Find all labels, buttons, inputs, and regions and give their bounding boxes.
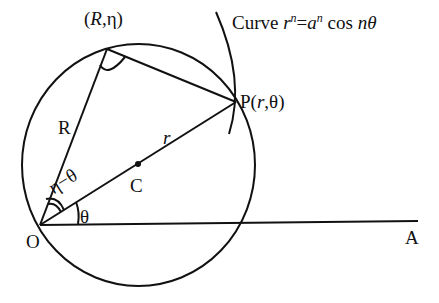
top-point-R: R xyxy=(90,8,102,29)
top-point-eta: ,η) xyxy=(102,8,123,29)
center-C-label: C xyxy=(130,176,143,195)
polar-curve-diagram: Curve rn=an cos nθ (R,η) P(r,θ) R r C η−… xyxy=(0,0,439,303)
top-point-label: (R,η) xyxy=(84,9,123,28)
diagram-graphics xyxy=(0,0,439,303)
initial-line-OA xyxy=(40,221,418,225)
curve-cos: cos xyxy=(323,12,358,33)
curve-r: r xyxy=(283,12,290,33)
curve-eq: = xyxy=(297,12,308,33)
segment-r-label: r xyxy=(163,128,170,147)
segment-R-label: R xyxy=(58,118,71,137)
point-P-prefix: P( xyxy=(240,91,257,112)
origin-O-label: O xyxy=(26,232,40,251)
curve-ntheta: nθ xyxy=(358,12,377,33)
curve-label: Curve rn=an cos nθ xyxy=(232,12,376,32)
center-dot-C xyxy=(135,161,141,167)
angle-theta-label: θ xyxy=(80,207,89,226)
angle-arc-theta xyxy=(76,202,79,224)
curve-a: a xyxy=(307,12,317,33)
angle-arc-eta-theta-1 xyxy=(48,204,61,212)
curve-prefix: Curve xyxy=(232,12,283,33)
axis-A-label: A xyxy=(405,228,419,247)
point-P-label: P(r,θ) xyxy=(240,92,285,111)
point-P-theta: ,θ) xyxy=(264,91,284,112)
